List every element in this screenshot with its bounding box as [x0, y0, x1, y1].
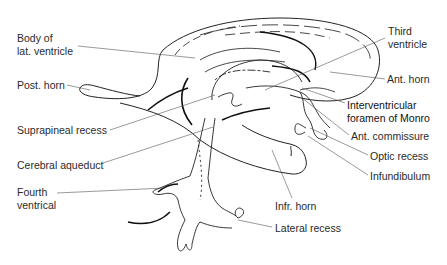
- label-body-lat-ventricle: Body of lat. ventricle: [17, 32, 73, 57]
- label-lateral-recess: Lateral recess: [275, 222, 341, 235]
- label-suprapineal-recess: Suprapineal recess: [17, 124, 107, 137]
- label-infr-horn: Infr. horn: [275, 200, 316, 213]
- label-interventricular-foramen: Interventricular foramen of Monro: [347, 99, 430, 124]
- label-fourth-ventrical: Fourth ventrical: [17, 186, 56, 211]
- label-ant-commissure: Ant. commissure: [351, 130, 429, 143]
- label-third-ventricle: Third ventricle: [388, 25, 427, 50]
- label-post-horn: Post. horn: [17, 79, 65, 92]
- label-optic-recess: Optic recess: [370, 150, 428, 163]
- lateral-ventricle-inner-contours: [175, 25, 370, 92]
- label-cerebral-aqueduct: Cerebral aqueduct: [17, 159, 103, 172]
- label-infundibulum: Infundibulum: [370, 170, 430, 183]
- label-ant-horn: Ant. horn: [387, 73, 430, 86]
- lateral-ventricle-outline: [80, 18, 380, 174]
